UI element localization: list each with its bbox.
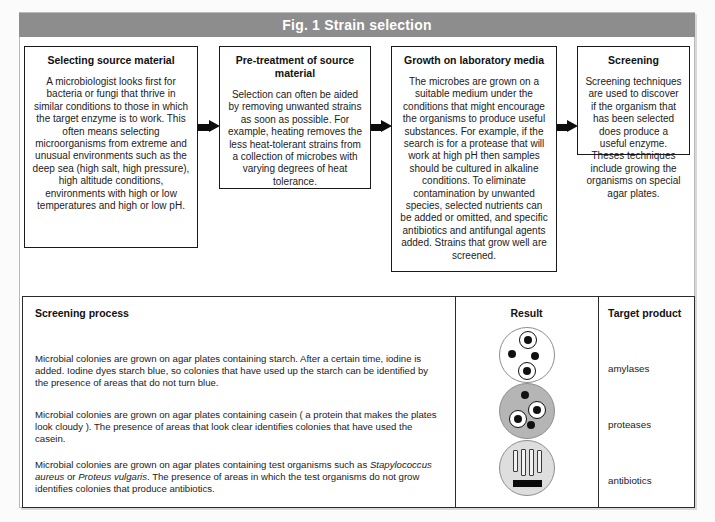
flow-step-body: Screening techniques are used to discove… bbox=[585, 76, 682, 200]
flow-step-selecting-source-material: Selecting source material A microbiologi… bbox=[24, 46, 198, 248]
scan-artifact-text bbox=[232, 0, 362, 8]
table-cell-result bbox=[455, 327, 598, 383]
flow-step-title: Pre-treatment of source material bbox=[227, 54, 363, 80]
colony-with-clear-halo bbox=[528, 401, 546, 419]
flow-step-body: Selection can often be aided by removing… bbox=[227, 89, 363, 188]
colony-with-clear-halo bbox=[518, 362, 536, 380]
table-cell-process: Microbial colonies are grown on agar pla… bbox=[35, 353, 443, 389]
colony bbox=[521, 391, 529, 399]
flow-step-body: A microbiologist looks first for bacteri… bbox=[32, 76, 190, 212]
table-header-screening-process: Screening process bbox=[35, 307, 129, 319]
screening-table: Screening process Result Target product … bbox=[22, 296, 695, 508]
streak bbox=[513, 450, 518, 472]
agar-plate-icon-protease bbox=[499, 383, 555, 439]
table-cell-process: Microbial colonies are grown on agar pla… bbox=[35, 459, 443, 495]
table-cell-target-product: amylases bbox=[608, 363, 649, 374]
table-cell-process: Microbial colonies are grown on agar pla… bbox=[35, 409, 443, 445]
agar-plate-icon-antibiotic bbox=[499, 440, 555, 496]
flow-step-title: Screening bbox=[585, 54, 682, 67]
flow-step-pre-treatment: Pre-treatment of source material Selecti… bbox=[219, 46, 371, 189]
colony-with-clear-halo bbox=[519, 331, 537, 349]
table-cell-result bbox=[455, 383, 598, 439]
flow-diagram: Selecting source material A microbiologi… bbox=[19, 43, 695, 288]
table-cell-target-product: antibiotics bbox=[608, 475, 652, 486]
figure-title: Fig. 1 Strain selection bbox=[282, 17, 431, 33]
colony bbox=[527, 421, 535, 429]
figure-header-bar: Fig. 1 Strain selection bbox=[19, 13, 695, 37]
flow-step-title: Growth on laboratory media bbox=[399, 54, 549, 67]
table-cell-target-product: proteases bbox=[608, 419, 651, 430]
arrow-right-icon bbox=[371, 120, 392, 133]
flow-step-body: The microbes are grown on a suitable med… bbox=[399, 76, 549, 262]
agar-plate-icon-amylase bbox=[499, 327, 555, 383]
flow-step-screening: Screening Screening techniques are used … bbox=[577, 46, 690, 155]
arrow-right-icon bbox=[198, 120, 220, 133]
colony bbox=[508, 350, 516, 358]
table-column-divider bbox=[598, 297, 599, 507]
streak bbox=[537, 450, 542, 473]
table-header-result: Result bbox=[455, 307, 598, 319]
streak bbox=[521, 449, 526, 476]
streak bbox=[529, 449, 534, 476]
arrow-right-icon bbox=[557, 120, 578, 133]
table-cell-result bbox=[455, 440, 598, 496]
colony bbox=[531, 352, 539, 360]
figure-page: Fig. 1 Strain selection Selecting source… bbox=[0, 0, 715, 522]
table-header-target-product: Target product bbox=[608, 307, 681, 319]
inhibition-zone bbox=[513, 480, 542, 487]
colony-with-clear-halo bbox=[509, 410, 527, 428]
flow-step-title: Selecting source material bbox=[32, 54, 190, 67]
flow-step-growth-on-laboratory-media: Growth on laboratory media The microbes … bbox=[391, 46, 557, 272]
